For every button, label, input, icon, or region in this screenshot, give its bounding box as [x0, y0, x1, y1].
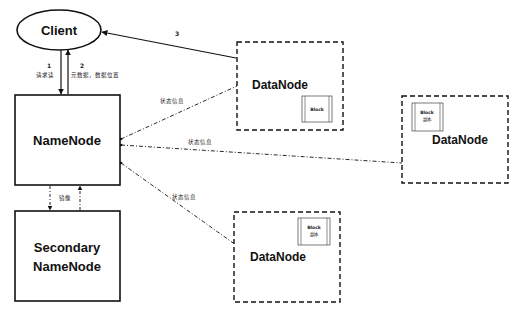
- block-label: Block: [307, 225, 322, 230]
- datanode-2: DataNode Block 副本: [402, 96, 508, 183]
- step2-label: 元数据，数据位置: [71, 71, 119, 79]
- step1-num: 1: [47, 62, 51, 69]
- block-label: Block: [420, 110, 435, 115]
- datanode-2-block: Block 副本: [412, 103, 443, 131]
- client-label: Client: [41, 23, 78, 38]
- edge-read-data: 3: [102, 30, 236, 58]
- step3-num: 3: [175, 30, 179, 37]
- step2-num: 2: [80, 62, 84, 69]
- edge-metadata: 2 元数据，数据位置: [68, 50, 119, 94]
- hdfs-read-diagram: Client NameNode Secondary NameNode 1 请求读…: [0, 0, 518, 319]
- datanode-1-block: Block: [302, 96, 332, 122]
- block-label: Block: [310, 107, 325, 112]
- datanode-3-label: DataNode: [250, 250, 306, 264]
- status-label-2: 状态信息: [188, 138, 212, 146]
- datanode-1: DataNode Block: [237, 42, 343, 130]
- datanode-2-label: DataNode: [432, 133, 488, 147]
- edge-status-1: 状态信息: [120, 86, 237, 140]
- mirror-label: 镜像: [59, 194, 71, 202]
- secondary-label-line2: NameNode: [33, 259, 101, 274]
- secondary-namenode-box: Secondary NameNode: [15, 211, 120, 301]
- datanode-1-label: DataNode: [252, 78, 308, 92]
- client-node: Client: [17, 10, 101, 50]
- secondary-label-line1: Secondary: [34, 240, 101, 255]
- datanode-3: DataNode Block 副本: [234, 212, 340, 302]
- namenode-label: NameNode: [33, 133, 101, 148]
- block-replica-label: 副本: [310, 231, 319, 238]
- edge-status-3: 状态信息: [120, 162, 236, 245]
- status-label-3: 状态信息: [172, 193, 196, 201]
- edge-request-read: 1 请求读: [36, 50, 61, 94]
- datanode-3-block: Block 副本: [298, 218, 330, 245]
- step1-label: 请求读: [36, 71, 54, 79]
- edge-status-2: 状态信息: [120, 138, 402, 163]
- edge-mirror: 镜像: [50, 186, 80, 210]
- status-label-1: 状态信息: [160, 97, 184, 105]
- namenode-box: NameNode: [15, 95, 120, 185]
- block-replica-label: 副本: [423, 116, 432, 123]
